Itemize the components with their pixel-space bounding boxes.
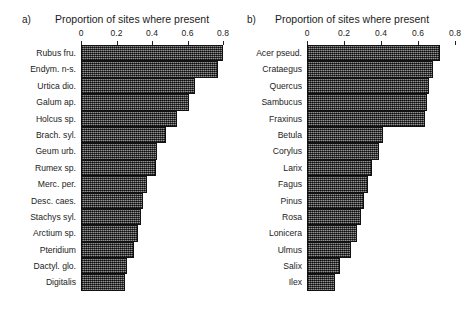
- bar-row: Quercus: [307, 78, 455, 94]
- bar: [81, 111, 177, 127]
- bar: [81, 78, 195, 94]
- panel-b-bars: Acer pseud.CrataegusQuercusSambucusFraxi…: [307, 45, 455, 291]
- bar-row: Pteridium: [81, 242, 223, 258]
- bar-row: Holcus sp.: [81, 111, 223, 127]
- bar: [307, 143, 379, 159]
- bar-row: Sambucus: [307, 94, 455, 110]
- panel-b-axis-title: Proportion of sites where present: [275, 13, 429, 25]
- panel-b-xtick-label: 0: [305, 28, 310, 38]
- bar: [307, 258, 340, 274]
- panel-a-tick-labels: 00.20.40.60.8: [81, 28, 223, 42]
- category-label: Rumex sp.: [35, 160, 81, 176]
- bar-row: Urtica dio.: [81, 78, 223, 94]
- bar-row: Rosa: [307, 209, 455, 225]
- panel-a-xtick-label: 0.2: [111, 28, 123, 38]
- category-label: Pteridium: [40, 242, 81, 258]
- bar: [81, 61, 218, 77]
- category-label: Geum urb.: [35, 143, 81, 159]
- bar: [81, 258, 127, 274]
- category-label: Salix: [283, 258, 307, 274]
- bar-row: Merc. per.: [81, 176, 223, 192]
- bar: [307, 209, 361, 225]
- bar: [307, 176, 368, 192]
- bar-row: Fraxinus: [307, 111, 455, 127]
- bar-row: Digitalis: [81, 274, 223, 290]
- bar: [81, 160, 156, 176]
- bar-row: Stachys syl.: [81, 209, 223, 225]
- panel-a: a) Proportion of sites where present 00.…: [0, 0, 233, 323]
- bar: [81, 274, 125, 290]
- category-label: Ilex: [289, 274, 307, 290]
- bar-row: Ulmus: [307, 242, 455, 258]
- panel-b-xtick-label: 0.4: [375, 28, 387, 38]
- category-label: Arctium sp.: [33, 225, 81, 241]
- bar: [307, 61, 433, 77]
- bar: [307, 242, 351, 258]
- bar: [307, 94, 427, 110]
- category-label: Holcus sp.: [36, 111, 81, 127]
- panel-a-plot-area: 00.20.40.60.8 Rubus fru.Endym. n-s.Urtic…: [81, 28, 223, 313]
- bar-row: Desc. caes.: [81, 193, 223, 209]
- category-label: Fagus: [278, 176, 307, 192]
- bar: [81, 94, 189, 110]
- bar-row: Acer pseud.: [307, 45, 455, 61]
- panel-b-xtick-mark: [455, 41, 456, 45]
- panel-a-bars: Rubus fru.Endym. n-s.Urtica dio.Galum ap…: [81, 45, 223, 291]
- bar: [307, 274, 335, 290]
- category-label: Endym. n-s.: [30, 61, 81, 77]
- bar-row: Lonicera: [307, 225, 455, 241]
- category-label: Sambucus: [261, 94, 307, 110]
- category-label: Acer pseud.: [256, 45, 307, 61]
- bar-row: Salix: [307, 258, 455, 274]
- bar-row: Geum urb.: [81, 143, 223, 159]
- bar: [307, 160, 372, 176]
- bar-row: Ilex: [307, 274, 455, 290]
- category-label: Rosa: [282, 209, 307, 225]
- category-label: Urtica dio.: [37, 78, 81, 94]
- category-label: Brach. syl.: [36, 127, 81, 143]
- bar-row: Crataegus: [307, 61, 455, 77]
- category-label: Rubus fru.: [36, 45, 81, 61]
- panel-b-tick-labels: 00.20.40.60.8: [307, 28, 455, 42]
- panel-b-xtick-label: 0.6: [412, 28, 424, 38]
- bar: [307, 111, 425, 127]
- bar: [81, 193, 143, 209]
- bar-row: Galum ap.: [81, 94, 223, 110]
- category-label: Stachys syl.: [30, 209, 81, 225]
- panel-a-xtick-label: 0: [79, 28, 84, 38]
- panel-b-plot-area: 00.20.40.60.8 Acer pseud.CrataegusQuercu…: [307, 28, 455, 313]
- category-label: Crataegus: [262, 61, 307, 77]
- category-label: Dactyl. glo.: [33, 258, 81, 274]
- category-label: Pinus: [281, 193, 308, 209]
- bar: [81, 45, 223, 61]
- bar: [307, 127, 383, 143]
- panel-b-tag: b): [247, 14, 256, 25]
- panel-a-xtick-mark: [223, 41, 224, 45]
- bar: [81, 176, 147, 192]
- bar-row: Betula: [307, 127, 455, 143]
- bar: [81, 209, 141, 225]
- panel-a-xtick-label: 0.6: [182, 28, 194, 38]
- category-label: Merc. per.: [38, 176, 81, 192]
- bar: [307, 193, 364, 209]
- category-label: Desc. caes.: [31, 193, 81, 209]
- bar-row: Dactyl. glo.: [81, 258, 223, 274]
- category-label: Corylus: [273, 143, 307, 159]
- category-label: Lonicera: [269, 225, 307, 241]
- bar-row: Pinus: [307, 193, 455, 209]
- bar-row: Endym. n-s.: [81, 61, 223, 77]
- bar: [307, 78, 429, 94]
- panel-a-axis-title: Proportion of sites where present: [55, 13, 209, 25]
- bar-row: Rubus fru.: [81, 45, 223, 61]
- bar-row: Arctium sp.: [81, 225, 223, 241]
- category-label: Galum ap.: [36, 94, 81, 110]
- category-label: Larix: [283, 160, 307, 176]
- bar: [81, 143, 157, 159]
- panel-a-xtick-label: 0.8: [217, 28, 229, 38]
- category-label: Fraxinus: [269, 111, 307, 127]
- panel-b-xtick-label: 0.8: [449, 28, 461, 38]
- bar: [81, 127, 166, 143]
- bar: [307, 45, 440, 61]
- bar-row: Fagus: [307, 176, 455, 192]
- panel-a-tag: a): [22, 14, 31, 25]
